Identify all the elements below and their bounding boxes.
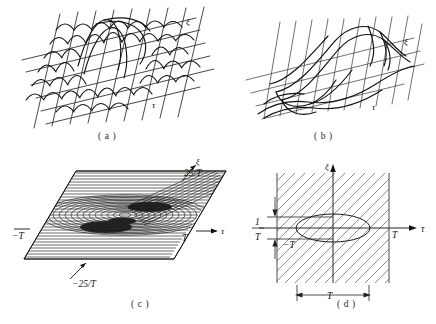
panel-d-xi-scale-numerator: 1: [255, 217, 260, 227]
panel-b-axis-labels: ξ τ: [372, 37, 408, 112]
panel-d-xi-negative-label: −T: [283, 240, 295, 250]
panel-c-xi-min-label: −25/T: [72, 279, 97, 289]
panel-d-xi-scale-denominator: T: [255, 232, 261, 242]
panel-c-contours: [22, 167, 230, 257]
panel-b-tau-label: τ: [372, 102, 376, 112]
panel-d-tau-right-label: T: [392, 230, 398, 240]
panel-a-axis-labels: ξ τ: [152, 17, 190, 110]
caption-panel-d: ( d ): [337, 299, 356, 309]
panel-d-hatched-band: [277, 173, 436, 291]
figure-root: ξ τ: [0, 0, 436, 324]
panel-c-xi-min-pointer: [70, 263, 86, 279]
panel-d-xi-label: ξ: [325, 162, 329, 172]
caption-panel-c: ( c ): [131, 299, 149, 309]
panel-c-tau-min-label: −T: [12, 231, 24, 241]
panel-c-xi-label: ξ: [196, 158, 200, 167]
panel-c-graphic: ξ 25/T −25/T τ −T T: [10, 155, 240, 324]
panel-d-tau-label: τ: [421, 224, 425, 234]
panel-a-xi-label: ξ: [186, 17, 190, 27]
panel-b-mesh: [246, 16, 424, 119]
panel-b-xi-label: ξ: [404, 37, 408, 47]
panel-d-width-label: T: [327, 291, 333, 301]
panel-d-width-dimension: [295, 285, 371, 301]
panel-c-xi-max-label: 25/T: [184, 168, 202, 178]
caption-panel-b: ( b ): [314, 131, 333, 141]
panel-c-tau-label: τ: [221, 226, 225, 236]
panel-a-tau-label: τ: [152, 100, 156, 110]
panel-c-tau-axis: [196, 228, 218, 233]
panel-d-xi-scale-label: 1 T: [252, 217, 264, 242]
panel-c: ξ 25/T −25/T τ −T T: [10, 155, 240, 324]
caption-panel-a: ( a ): [98, 131, 116, 141]
panel-c-tau-max-label: T: [182, 233, 188, 243]
